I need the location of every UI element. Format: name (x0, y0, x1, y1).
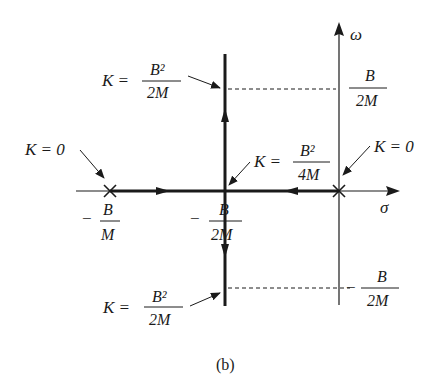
root-locus-diagram: σ ω K = 0 K = 0 − B M (0, 0, 444, 388)
pole-left-pointer (80, 150, 104, 178)
svg-text:K =: K = (102, 298, 130, 317)
lower-omega-label: − B 2M (346, 268, 399, 309)
arrow-up-icon (221, 108, 229, 122)
svg-text:4M: 4M (298, 166, 321, 183)
svg-text:B²: B² (300, 142, 316, 159)
breakaway-gain-label: K = B² 4M (253, 142, 330, 183)
svg-text:B²: B² (150, 61, 166, 78)
svg-text:−: − (82, 209, 92, 228)
svg-text:2M: 2M (211, 226, 234, 243)
lower-marker-pointer (190, 293, 220, 306)
breakaway-pointer (229, 162, 250, 185)
lower-marker-gain-label: K = B² 2M (102, 288, 183, 328)
breakaway-position-label: − B 2M (190, 201, 242, 243)
svg-text:2M: 2M (147, 84, 170, 101)
arrow-left-icon (284, 187, 298, 195)
svg-text:−: − (346, 278, 356, 297)
svg-text:2M: 2M (149, 311, 172, 328)
svg-text:B²: B² (152, 288, 168, 305)
upper-marker-pointer (188, 76, 220, 88)
svg-text:B: B (103, 201, 113, 218)
vertical-locus (221, 54, 229, 306)
omega-axis (334, 22, 344, 305)
svg-text:−: − (190, 209, 200, 228)
pole-origin-gain-label: K = 0 (373, 137, 414, 156)
pole-left-position-label: − B M (82, 201, 120, 243)
figure-caption: (b) (216, 356, 235, 374)
svg-text:B: B (365, 67, 375, 84)
pole-left-gain-label: K = 0 (24, 140, 65, 159)
pole-origin-pointer (343, 146, 370, 175)
arrow-down-icon (221, 244, 229, 258)
svg-text:K =: K = (253, 152, 281, 171)
svg-text:B: B (219, 201, 229, 218)
sigma-axis-label: σ (380, 198, 389, 217)
omega-axis-label: ω (350, 25, 362, 44)
arrow-right-icon (156, 187, 170, 195)
upper-marker-gain-label: K = B² 2M (101, 61, 181, 101)
svg-text:M: M (100, 226, 116, 243)
svg-text:2M: 2M (367, 292, 390, 309)
svg-text:B: B (377, 268, 387, 285)
svg-text:2M: 2M (356, 92, 379, 109)
upper-omega-label: B 2M (349, 67, 387, 109)
svg-text:K =: K = (101, 71, 129, 90)
